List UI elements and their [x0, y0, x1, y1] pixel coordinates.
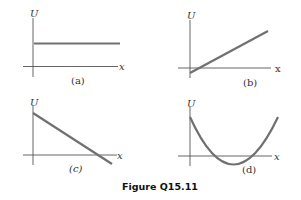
panel-label: (b) — [243, 77, 257, 88]
panel-a: U x (a) — [23, 8, 125, 86]
x-axis-label: x — [274, 151, 280, 162]
x-axis-label: x — [275, 63, 281, 74]
panel-label: (a) — [71, 75, 85, 86]
y-axis-label: U — [30, 8, 39, 19]
panel-d: U x (d) — [178, 98, 280, 175]
panel-c: U x (c) — [23, 97, 123, 174]
potential-curve — [190, 31, 268, 73]
figure-caption: Figure Q15.11 — [122, 181, 198, 192]
y-axis-label: U — [30, 97, 39, 108]
figure-q15-11: U x (a) U x (b) U x (c) U x (d) Figure Q… — [0, 0, 301, 200]
panel-label: (d) — [242, 164, 256, 175]
x-axis-label: x — [117, 150, 123, 161]
y-axis-label: U — [187, 98, 196, 109]
x-axis-label: x — [119, 61, 125, 72]
potential-curve — [190, 117, 278, 165]
potential-curve — [33, 113, 112, 164]
y-axis-label: U — [187, 10, 196, 21]
panel-b: U x (b) — [178, 10, 281, 88]
panel-label: (c) — [69, 163, 83, 174]
